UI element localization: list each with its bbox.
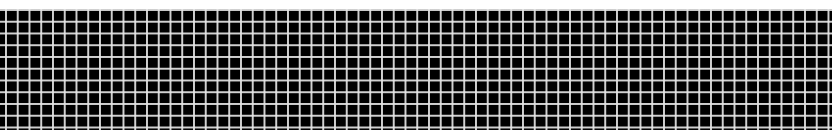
black-grid-panel bbox=[0, 9, 832, 130]
